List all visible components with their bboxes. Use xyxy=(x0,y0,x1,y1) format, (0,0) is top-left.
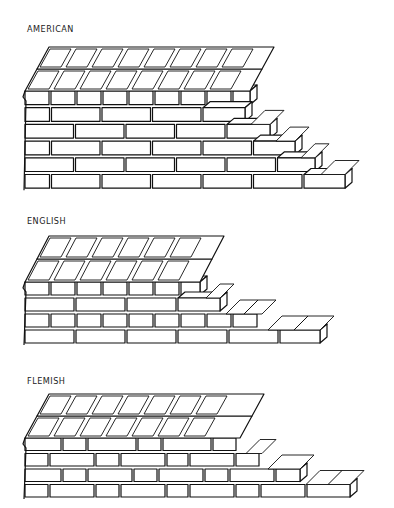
brick xyxy=(76,158,125,172)
brick xyxy=(51,91,75,105)
brick xyxy=(153,175,202,189)
stepped-brick-top xyxy=(246,440,276,454)
brick xyxy=(25,141,50,155)
brick xyxy=(25,314,49,327)
brick xyxy=(178,330,227,343)
brick xyxy=(126,158,175,172)
brick xyxy=(177,158,226,172)
wall-top-surface xyxy=(25,394,264,438)
stepped-brick-top xyxy=(301,144,329,158)
flemish-bond-label: FLEMISH xyxy=(27,376,65,386)
brick xyxy=(25,469,61,482)
brick xyxy=(181,314,205,327)
brick xyxy=(155,282,179,295)
english-bond-label: ENGLISH xyxy=(27,216,66,226)
brick xyxy=(181,91,205,105)
american-bond-drawing xyxy=(0,40,394,200)
brick xyxy=(254,175,303,189)
brick xyxy=(203,141,252,155)
brick xyxy=(163,438,211,451)
brick xyxy=(190,454,234,467)
brick xyxy=(230,469,274,482)
brick xyxy=(207,314,231,327)
brick xyxy=(153,141,202,155)
wall-top-surface xyxy=(25,236,224,282)
brick xyxy=(261,485,305,498)
flemish-bond-drawing xyxy=(0,392,394,508)
brick xyxy=(25,175,50,189)
brick xyxy=(88,469,132,482)
brick xyxy=(77,282,101,295)
brick xyxy=(134,469,157,482)
brick xyxy=(236,454,259,467)
brick xyxy=(88,438,136,451)
brick xyxy=(103,91,127,105)
brick xyxy=(102,175,151,189)
brick xyxy=(167,454,188,467)
brick xyxy=(121,454,165,467)
brick xyxy=(167,485,188,498)
brick xyxy=(25,298,74,311)
brick xyxy=(25,91,49,105)
brick xyxy=(233,314,257,327)
american-bond-label: AMERICAN xyxy=(27,24,74,34)
stepped-brick-top xyxy=(276,127,309,141)
brick xyxy=(25,438,61,451)
brick xyxy=(76,298,125,311)
brick xyxy=(229,330,278,343)
brick xyxy=(25,282,49,295)
brick xyxy=(190,485,234,498)
brick xyxy=(177,124,226,138)
brick xyxy=(159,469,203,482)
english-bond-drawing xyxy=(0,232,394,352)
brick xyxy=(155,314,179,327)
brick xyxy=(213,438,236,451)
brick xyxy=(121,485,165,498)
stepped-brick-top xyxy=(251,110,284,124)
brick xyxy=(127,330,176,343)
brick xyxy=(153,108,202,122)
brick xyxy=(227,158,276,172)
wall-top-surface xyxy=(25,47,274,91)
brick xyxy=(25,158,74,172)
brick xyxy=(96,485,119,498)
brick xyxy=(51,282,75,295)
brick xyxy=(129,314,153,327)
brick xyxy=(52,175,101,189)
brick xyxy=(205,469,228,482)
brick xyxy=(50,454,94,467)
brick xyxy=(25,485,48,498)
brick xyxy=(129,91,153,105)
stepped-brick-top xyxy=(206,284,234,298)
brick xyxy=(127,298,176,311)
brick xyxy=(52,141,101,155)
brick xyxy=(77,91,101,105)
brick xyxy=(25,124,74,138)
brick xyxy=(102,141,151,155)
brick xyxy=(76,330,125,343)
brick xyxy=(236,485,259,498)
brick xyxy=(129,282,153,295)
brick xyxy=(50,485,94,498)
brick xyxy=(25,330,74,343)
brick xyxy=(25,108,50,122)
brick xyxy=(103,282,127,295)
brick xyxy=(51,314,75,327)
brick xyxy=(76,124,125,138)
brick xyxy=(126,124,175,138)
brick xyxy=(103,314,127,327)
brick xyxy=(102,108,151,122)
brick xyxy=(96,454,119,467)
brick xyxy=(77,314,101,327)
brick xyxy=(155,91,179,105)
brick xyxy=(52,108,101,122)
stepped-brick-top xyxy=(321,161,359,175)
brick xyxy=(25,454,48,467)
brick xyxy=(63,438,86,451)
stepped-brick-top xyxy=(226,300,276,314)
brick xyxy=(203,175,252,189)
brick xyxy=(138,438,161,451)
brick xyxy=(63,469,86,482)
